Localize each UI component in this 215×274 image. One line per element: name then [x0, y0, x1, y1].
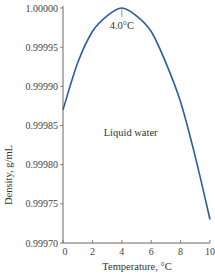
x-tick-label: 6 — [149, 246, 154, 257]
density-curve — [63, 8, 210, 220]
y-tick-label: 0.99995 — [26, 42, 59, 53]
density-chart: 0.999700.999750.999800.999850.999900.999… — [0, 0, 215, 274]
y-tick-label: 0.99985 — [26, 120, 59, 131]
x-axis-title: Temperature, °C — [102, 261, 171, 272]
y-tick-label: 0.99990 — [26, 81, 59, 92]
y-tick-label: 0.99980 — [26, 159, 59, 170]
x-tick-label: 8 — [178, 246, 183, 257]
y-tick-label: 1.00000 — [26, 3, 59, 14]
max-annotation: 4.0°C — [110, 20, 134, 31]
x-tick-label: 10 — [205, 246, 215, 257]
y-axis-ticks: 0.999700.999750.999800.999850.999900.999… — [26, 3, 64, 249]
x-tick-label: 4 — [119, 246, 124, 257]
y-tick-label: 0.99970 — [26, 238, 59, 249]
y-axis-title: Density, g/mL — [3, 145, 14, 205]
x-tick-label: 2 — [90, 246, 95, 257]
region-label: Liquid water — [104, 127, 158, 138]
x-tick-label: 0 — [63, 246, 68, 257]
y-tick-label: 0.99975 — [26, 198, 59, 209]
